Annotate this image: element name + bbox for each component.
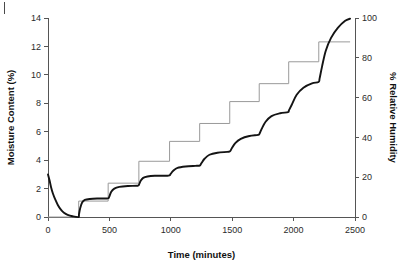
- x-tick-label: 2500: [345, 225, 365, 235]
- chart-figure: 0500100015002000250002468101214020406080…: [0, 0, 401, 268]
- y-tick-label-right: 80: [362, 53, 372, 63]
- moisture-content-series: [48, 19, 350, 217]
- y-tick-label-left: 2: [36, 184, 41, 194]
- axes-group: [44, 18, 359, 221]
- y-tick-label-left: 0: [36, 212, 41, 222]
- y-tick-label-right: 40: [362, 133, 372, 143]
- y-tick-label-left: 10: [31, 70, 41, 80]
- x-tick-label: 500: [102, 225, 117, 235]
- corner-mark-icon: [4, 2, 5, 14]
- y-tick-label-right: 20: [362, 172, 372, 182]
- x-tick-label: 1500: [222, 225, 242, 235]
- x-tick-label: 0: [45, 225, 50, 235]
- y-tick-label-right: 60: [362, 93, 372, 103]
- axis-labels-group: 0500100015002000250002468101214020406080…: [5, 13, 399, 260]
- y-axis-title-left: Moisture Content (%): [5, 70, 16, 166]
- y-tick-label-left: 14: [31, 13, 41, 23]
- x-tick-label: 1000: [161, 225, 181, 235]
- x-axis-title: Time (minutes): [168, 249, 235, 260]
- y-tick-label-left: 4: [36, 155, 41, 165]
- y-tick-label-left: 6: [36, 127, 41, 137]
- y-tick-label-left: 8: [36, 98, 41, 108]
- y-tick-label-right: 0: [362, 212, 367, 222]
- y-tick-label-right: 100: [362, 13, 377, 23]
- y-axis-title-right: % Relative Humidity: [388, 72, 399, 164]
- moisture-sorption-chart: 0500100015002000250002468101214020406080…: [0, 0, 401, 268]
- relative-humidity-step-series: [48, 42, 350, 217]
- series-group: [48, 19, 350, 217]
- y-tick-label-left: 12: [31, 42, 41, 52]
- x-tick-label: 2000: [284, 225, 304, 235]
